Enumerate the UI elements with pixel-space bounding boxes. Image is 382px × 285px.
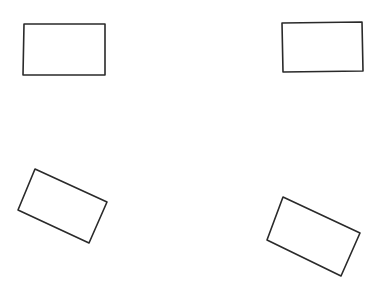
drawing-canvas (0, 0, 382, 285)
rectangle-bottom-right-tilted (267, 197, 360, 276)
rectangle-top-left (23, 24, 105, 75)
rectangle-top-right (282, 22, 363, 72)
rectangle-bottom-left-tilted (18, 169, 107, 243)
